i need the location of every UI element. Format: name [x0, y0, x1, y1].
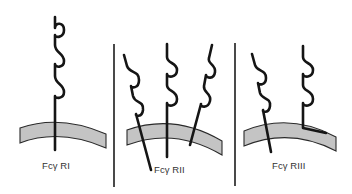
receptor-fcgr2-left	[124, 55, 151, 170]
receptor-fcgr2-right	[190, 45, 215, 145]
panel-fcgr2	[124, 44, 222, 170]
label-fcgr1: Fcγ RI	[42, 160, 70, 171]
label-fcgr2: Fcγ RII	[154, 164, 185, 175]
receptor-fcgr2-middle	[167, 44, 177, 157]
panel-fcgr3	[244, 46, 336, 152]
receptor-fcgr3-gpi-anchored	[303, 46, 326, 133]
label-fcgr3: Fcγ RIII	[272, 160, 306, 171]
cell-membrane	[127, 124, 222, 155]
cell-membrane	[244, 123, 336, 151]
cell-membrane	[20, 122, 106, 148]
panel-fcgr1	[20, 17, 106, 150]
